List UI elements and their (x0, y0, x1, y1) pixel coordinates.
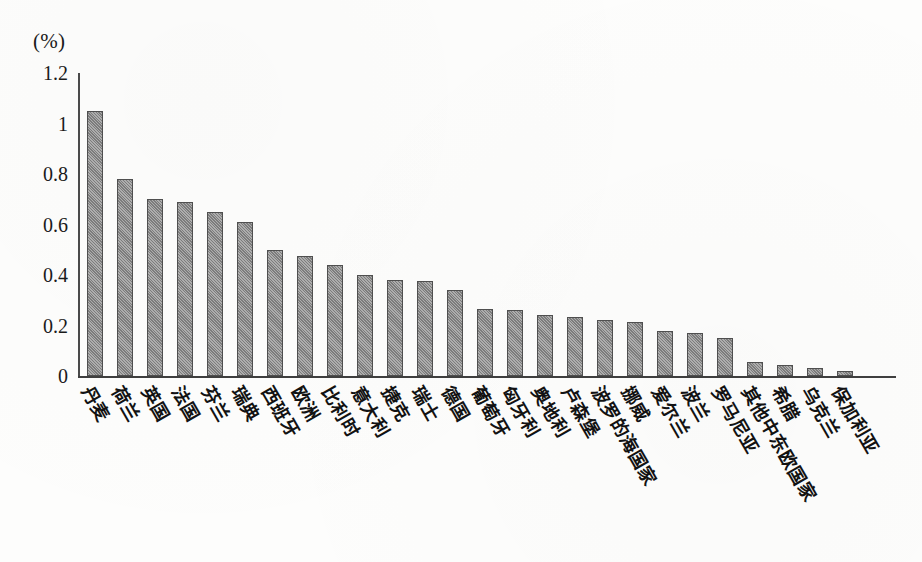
category-label-slot: 丹麦 (80, 381, 110, 561)
bar-slot (740, 73, 770, 376)
category-label: 丹麦 (79, 383, 114, 425)
y-tick-label: 1 (58, 114, 68, 134)
category-label-slot: 卢森堡 (560, 381, 590, 561)
bar-slot (260, 73, 290, 376)
category-label: 希腊 (769, 383, 804, 425)
category-label-slot: 瑞典 (230, 381, 260, 561)
category-label: 芬兰 (199, 383, 234, 425)
category-label-slot: 希腊 (770, 381, 800, 561)
category-label: 瑞士 (409, 383, 444, 425)
category-label: 荷兰 (109, 383, 144, 425)
bar-slot (500, 73, 530, 376)
bar[interactable] (207, 212, 223, 376)
category-label-slot: 荷兰 (110, 381, 140, 561)
bar[interactable] (267, 250, 283, 376)
y-tick-label: 0.2 (43, 316, 68, 336)
bar[interactable] (237, 222, 253, 376)
x-axis-line (78, 376, 896, 378)
bar[interactable] (177, 202, 193, 376)
bar[interactable] (777, 365, 793, 376)
bar-series (80, 73, 896, 376)
bar-slot (530, 73, 560, 376)
bar-slot (320, 73, 350, 376)
bar-slot (770, 73, 800, 376)
category-label-slot: 波兰 (680, 381, 710, 561)
bar-slot (620, 73, 650, 376)
category-label-slot: 爱尔兰 (650, 381, 680, 561)
category-label-slot: 捷克 (380, 381, 410, 561)
bar[interactable] (807, 368, 823, 376)
bar-slot (680, 73, 710, 376)
y-tick-label: 0 (58, 366, 68, 386)
bar[interactable] (147, 199, 163, 376)
bar[interactable] (567, 317, 583, 376)
x-axis-category-labels: 丹麦荷兰英国法国芬兰瑞典西班牙欧洲比利时意大利捷克瑞士德国葡萄牙匈牙利奥地利卢森… (80, 381, 896, 561)
category-label-slot: 欧洲 (290, 381, 320, 561)
category-label: 法国 (169, 383, 204, 425)
category-label-slot: 法国 (170, 381, 200, 561)
y-axis-units-label: (%) (33, 29, 65, 53)
bar-slot (470, 73, 500, 376)
y-tick-label: 0.8 (43, 164, 68, 184)
category-label-slot: 西班牙 (260, 381, 290, 561)
category-label: 瑞典 (229, 383, 264, 425)
category-label-slot: 乌克兰 (800, 381, 830, 561)
bar[interactable] (297, 256, 313, 376)
bar[interactable] (717, 338, 733, 376)
bar[interactable] (117, 179, 133, 376)
bar[interactable] (357, 275, 373, 376)
bar-slot (380, 73, 410, 376)
bar[interactable] (627, 322, 643, 376)
bar[interactable] (327, 265, 343, 376)
bar[interactable] (747, 362, 763, 376)
category-label-slot: 波罗的海国家 (590, 381, 620, 561)
category-label-slot: 其他中东欧国家 (740, 381, 770, 561)
category-label-slot: 比利时 (320, 381, 350, 561)
plot-area: 00.20.40.60.811.2 (78, 73, 896, 378)
category-label: 波兰 (679, 383, 714, 425)
y-tick-label: 0.6 (43, 215, 68, 235)
bar[interactable] (507, 310, 523, 376)
category-label-slot: 葡萄牙 (470, 381, 500, 561)
category-label: 保加利亚 (829, 383, 882, 457)
bar-slot (560, 73, 590, 376)
bar-chart-figure: (%) 00.20.40.60.811.2 丹麦荷兰英国法国芬兰瑞典西班牙欧洲比… (0, 0, 922, 562)
category-label-slot: 匈牙利 (500, 381, 530, 561)
bar-slot (110, 73, 140, 376)
bar-slot (800, 73, 830, 376)
category-label-slot: 芬兰 (200, 381, 230, 561)
bar-slot (350, 73, 380, 376)
category-label-slot: 英国 (140, 381, 170, 561)
bar[interactable] (387, 280, 403, 376)
category-label-slot: 意大利 (350, 381, 380, 561)
bar[interactable] (657, 331, 673, 376)
category-label-slot: 保加利亚 (830, 381, 860, 561)
bar[interactable] (537, 315, 553, 376)
bar-slot (80, 73, 110, 376)
bar-slot (200, 73, 230, 376)
category-label: 欧洲 (289, 383, 324, 425)
bar-slot (170, 73, 200, 376)
bar[interactable] (597, 320, 613, 376)
category-label-slot: 罗马尼亚 (710, 381, 740, 561)
bar-slot (710, 73, 740, 376)
category-label-slot: 奥地利 (530, 381, 560, 561)
y-tick-label: 0.4 (43, 265, 68, 285)
bar-slot (440, 73, 470, 376)
bar-slot (290, 73, 320, 376)
bar[interactable] (837, 371, 853, 376)
category-label-slot: 挪威 (620, 381, 650, 561)
bar-slot (410, 73, 440, 376)
category-label: 英国 (139, 383, 174, 425)
bar[interactable] (477, 309, 493, 376)
y-tick-label: 1.2 (43, 63, 68, 83)
bar[interactable] (87, 111, 103, 376)
bar-slot (650, 73, 680, 376)
category-label: 捷克 (379, 383, 414, 425)
bar-slot (590, 73, 620, 376)
bar[interactable] (417, 281, 433, 376)
bar-slot (830, 73, 860, 376)
bar[interactable] (447, 290, 463, 376)
bar-slot (140, 73, 170, 376)
bar[interactable] (687, 333, 703, 376)
